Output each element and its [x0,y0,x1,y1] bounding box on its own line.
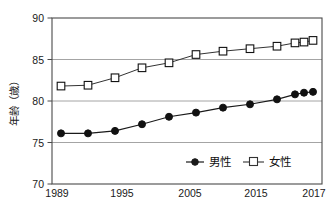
y-tick-label-85: 85 [32,54,44,66]
data-point-female [57,82,65,90]
y-tick-label-90: 90 [32,12,44,24]
y-axis-title: 年齢（歳） [8,76,20,126]
data-point-female [165,59,173,67]
data-point-male [274,96,281,103]
data-point-female [291,39,299,47]
data-point-female [246,45,254,53]
legend-label-male: 男性 [209,155,231,169]
data-point-male [247,101,254,108]
data-point-female [192,51,200,59]
open-square-icon [250,158,258,166]
data-point-female [138,64,146,72]
x-tick-label-2015: 2015 [244,187,268,199]
data-point-male [139,121,146,128]
data-point-female [111,74,119,82]
y-tick-label-70: 70 [32,178,44,190]
data-point-male [58,130,65,137]
data-point-female [309,37,317,45]
data-point-male [220,104,227,111]
life-expectancy-chart: 90 85 80 75 70 年齢（歳） 1989 1995 2005 2015… [0,0,335,218]
data-point-female [300,38,308,46]
data-point-male [292,91,299,98]
data-point-female [84,81,92,89]
x-tick-label-1989: 1989 [45,187,69,199]
chart-canvas: 90 85 80 75 70 年齢（歳） 1989 1995 2005 2015… [0,0,335,218]
x-tick-label-2005: 2005 [178,187,202,199]
data-point-female [219,47,227,55]
y-tick-label-75: 75 [32,137,44,149]
data-point-male [85,130,92,137]
data-point-male [301,89,308,96]
data-point-male [310,88,317,95]
data-point-male [193,109,200,116]
y-axis-ticks [48,18,53,184]
data-point-female [273,42,281,50]
legend-label-female: 女性 [269,155,291,169]
data-point-male [166,113,173,120]
filled-circle-icon [192,159,199,166]
x-tick-label-2017: 2017 [302,187,326,199]
x-tick-label-1995: 1995 [110,187,134,199]
data-point-male [112,127,119,134]
y-tick-label-80: 80 [32,95,44,107]
